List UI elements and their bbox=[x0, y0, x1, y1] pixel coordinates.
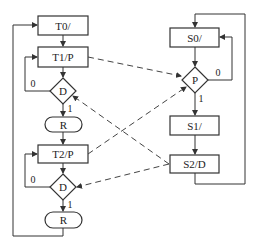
dashed-link-s2-d2 bbox=[77, 164, 169, 187]
node-s1: S1/ bbox=[170, 116, 219, 135]
node-s2: S2/D bbox=[170, 155, 219, 173]
flowchart-canvas: T0/ T1/P D 0 1 R T2/P D 0 1 R bbox=[0, 0, 258, 249]
node-s0-label: S0/ bbox=[187, 32, 203, 44]
node-s1-label: S1/ bbox=[187, 120, 203, 132]
node-p: P bbox=[182, 67, 208, 93]
node-t2: T2/P bbox=[38, 145, 88, 163]
edge-p-false-label: 0 bbox=[216, 67, 221, 78]
dashed-link-t1-p bbox=[88, 57, 181, 76]
node-d1-label: D bbox=[59, 85, 67, 97]
node-s0: S0/ bbox=[170, 28, 219, 47]
node-t1-label: T1/P bbox=[52, 51, 73, 63]
node-p-label: P bbox=[192, 74, 198, 86]
edge-d1-true-label: 1 bbox=[68, 103, 73, 114]
node-r2-label: R bbox=[60, 214, 68, 226]
edge-d2-false-label: 0 bbox=[31, 174, 36, 185]
node-d2-label: D bbox=[59, 181, 67, 193]
node-s2-label: S2/D bbox=[183, 158, 206, 170]
edge-d1-false-label: 0 bbox=[31, 78, 36, 89]
edge-d2-true-label: 1 bbox=[68, 199, 73, 210]
node-d1: D bbox=[50, 78, 76, 104]
node-t0-label: T0/ bbox=[55, 20, 71, 32]
node-r2: R bbox=[45, 212, 82, 228]
node-t1: T1/P bbox=[38, 47, 88, 67]
node-t0: T0/ bbox=[38, 16, 88, 35]
node-r1: R bbox=[45, 117, 82, 132]
node-d2: D bbox=[50, 174, 76, 200]
node-r1-label: R bbox=[60, 119, 68, 131]
node-t2-label: T2/P bbox=[52, 148, 73, 160]
edge-p-true-label: 1 bbox=[199, 93, 204, 104]
